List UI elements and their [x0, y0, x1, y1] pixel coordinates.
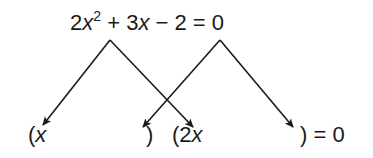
- second-factor-open: (2x: [172, 124, 203, 146]
- close-paren-equals-zero: ) = 0: [300, 122, 345, 147]
- factor2-coefficient: 2: [179, 122, 191, 147]
- second-factor-close: ) = 0: [300, 124, 345, 146]
- arrow-left-outer-icon: [43, 40, 110, 125]
- arrow-right-outer-icon: [220, 40, 293, 127]
- factor1-variable: x: [35, 122, 46, 147]
- factoring-diagram: 2x2 + 3x − 2 = 0 (x ) (2x ) = 0: [0, 0, 373, 158]
- first-factor-open: (x: [28, 124, 46, 146]
- close-paren-1: ): [146, 122, 153, 147]
- first-factor-close: ): [146, 124, 153, 146]
- factor2-variable: x: [192, 122, 203, 147]
